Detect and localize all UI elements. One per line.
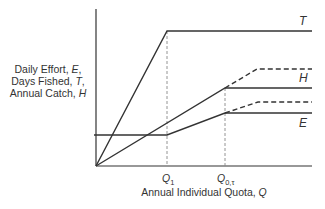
y-label-text: Daily Effort, bbox=[15, 63, 72, 75]
y-label-text: Days Fished, bbox=[11, 75, 75, 87]
tick-q1: Q1 bbox=[162, 172, 174, 187]
y-label-var: H bbox=[79, 87, 87, 99]
y-label-line-days: Days Fished, T, bbox=[2, 75, 94, 87]
tick-q0tau: Q0,τ bbox=[217, 172, 234, 187]
x-label-text: Annual Individual Quota, bbox=[141, 186, 258, 198]
h-curve bbox=[96, 88, 312, 166]
label-h: H bbox=[299, 71, 308, 85]
y-label-suffix: , bbox=[82, 75, 85, 87]
label-e: E bbox=[299, 116, 307, 130]
e-curve-dashed bbox=[225, 102, 312, 113]
x-axis-label: Annual Individual Quota, Q bbox=[96, 186, 312, 198]
y-label-text: Annual Catch, bbox=[10, 87, 79, 99]
label-t: T bbox=[299, 14, 306, 28]
e-curve bbox=[94, 113, 312, 135]
y-label-var: E bbox=[72, 63, 79, 75]
y-axis-label: Daily Effort, E, Days Fished, T, Annual … bbox=[2, 63, 94, 99]
y-label-suffix: , bbox=[79, 63, 82, 75]
y-label-line-catch: Annual Catch, H bbox=[2, 87, 94, 99]
y-label-line-effort: Daily Effort, E, bbox=[2, 63, 94, 75]
tick-main: Q bbox=[162, 172, 170, 184]
x-label-var: Q bbox=[259, 186, 267, 198]
tick-main: Q bbox=[217, 172, 225, 184]
